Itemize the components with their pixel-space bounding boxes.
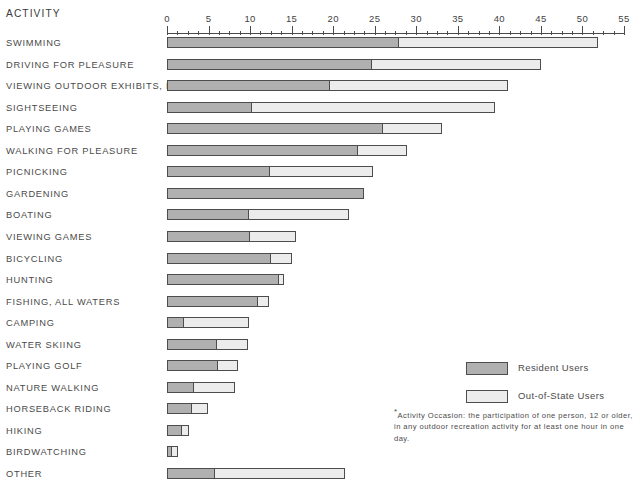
bar-segment-resident: [167, 166, 270, 177]
axis-tick-label: 0: [164, 13, 170, 24]
bar-segment-resident: [167, 123, 383, 134]
chart-row: SWIMMING: [0, 36, 638, 50]
axis-tick-minor: [344, 31, 345, 35]
bar-segment-resident: [167, 317, 184, 328]
row-label: PLAYING GAMES: [6, 122, 92, 136]
row-label: DRIVING FOR PLEASURE: [6, 58, 134, 72]
bar-segment-resident: [167, 188, 364, 199]
stacked-bar: [167, 209, 349, 220]
stacked-bar: [167, 102, 495, 113]
row-label: PLAYING GOLF: [6, 359, 83, 373]
legend-label: Out-of-State Users: [518, 389, 604, 403]
chart-row: SIGHTSEEING: [0, 101, 638, 115]
axis-tick-minor: [603, 31, 604, 35]
bar-segment-resident: [167, 360, 218, 371]
axis-tick-minor: [562, 31, 563, 35]
axis-tick-label: 25: [369, 13, 380, 24]
axis-tick-minor: [531, 31, 532, 35]
axis-tick-major: [624, 26, 625, 35]
chart-row: BICYCLING: [0, 252, 638, 266]
axis-tick-minor: [229, 31, 230, 35]
axis-tick-minor: [406, 31, 407, 35]
stacked-bar: [167, 360, 238, 371]
x-axis: 0510152025303540455055: [0, 0, 638, 40]
chart-row: DRIVING FOR PLEASURE: [0, 58, 638, 72]
bar-segment-resident: [167, 59, 372, 70]
chart-row: VIEWING GAMES: [0, 230, 638, 244]
axis-tick-label: 20: [327, 13, 338, 24]
bar-segment-out-of-state: [257, 296, 269, 307]
bar-segment-out-of-state: [329, 80, 508, 91]
stacked-bar: [167, 253, 292, 264]
stacked-bar: [167, 446, 178, 457]
axis-tick-minor: [427, 31, 428, 35]
axis-tick-minor: [479, 31, 480, 35]
axis-tick-major: [292, 26, 293, 35]
row-label: OTHER: [6, 467, 42, 481]
bar-segment-out-of-state: [191, 403, 208, 414]
stacked-bar: [167, 382, 235, 393]
axis-tick-minor: [198, 31, 199, 35]
axis-tick-minor: [354, 31, 355, 35]
bar-segment-resident: [167, 209, 249, 220]
bar-segment-resident: [167, 403, 192, 414]
row-label: SWIMMING: [6, 36, 62, 50]
axis-tick-label: 5: [206, 13, 212, 24]
axis-tick-major: [333, 26, 334, 35]
bar-segment-out-of-state: [181, 425, 189, 436]
bar-segment-resident: [167, 425, 182, 436]
stacked-bar: [167, 166, 373, 177]
bar-segment-out-of-state: [269, 166, 373, 177]
axis-tick-minor: [364, 31, 365, 35]
bar-segment-resident: [167, 145, 358, 156]
row-label: FISHING, ALL WATERS: [6, 295, 120, 309]
axis-tick-minor: [572, 31, 573, 35]
axis-tick-minor: [260, 31, 261, 35]
stacked-bar: [167, 274, 284, 285]
bar-segment-out-of-state: [357, 145, 407, 156]
bar-segment-out-of-state: [382, 123, 442, 134]
bar-segment-resident: [167, 253, 271, 264]
chart-row: PICNICKING: [0, 165, 638, 179]
footnote-line-2: in any outdoor recreation activity for a…: [394, 422, 624, 443]
axis-tick-major: [582, 26, 583, 35]
axis-tick-label: 50: [577, 13, 588, 24]
row-label: BIRDWATCHING: [6, 445, 87, 459]
bar-segment-resident: [167, 102, 252, 113]
stacked-bar: [167, 80, 508, 91]
chart-row: VIEWING OUTDOOR EXHIBITS, ETC.: [0, 79, 638, 93]
bar-segment-out-of-state: [249, 231, 296, 242]
bar-segment-out-of-state: [217, 360, 238, 371]
row-label: WATER SKIING: [6, 338, 82, 352]
row-label: CAMPING: [6, 316, 55, 330]
row-label: GARDENING: [6, 187, 69, 201]
bar-segment-resident: [167, 468, 215, 479]
axis-tick-minor: [510, 31, 511, 35]
bar-segment-resident: [167, 274, 279, 285]
bar-segment-out-of-state: [214, 468, 345, 479]
axis-tick-minor: [447, 31, 448, 35]
row-label: NATURE WALKING: [6, 381, 99, 395]
axis-tick-minor: [551, 31, 552, 35]
bar-segment-resident: [167, 37, 399, 48]
axis-tick-minor: [437, 31, 438, 35]
footnote-line-1: Activity Occasion: the participation of …: [398, 411, 633, 420]
stacked-bar: [167, 296, 269, 307]
axis-tick-minor: [302, 31, 303, 35]
axis-tick-minor: [520, 31, 521, 35]
chart-row: BOATING: [0, 208, 638, 222]
bar-segment-out-of-state: [278, 274, 284, 285]
out-of-state-swatch: [466, 390, 508, 403]
row-label: BICYCLING: [6, 252, 63, 266]
bar-segment-out-of-state: [398, 37, 598, 48]
axis-tick-label: 10: [244, 13, 255, 24]
axis-tick-major: [209, 26, 210, 35]
chart-row: OTHER: [0, 467, 638, 481]
axis-tick-major: [499, 26, 500, 35]
footnote: *Activity Occasion: the participation of…: [394, 406, 636, 444]
bar-segment-resident: [167, 339, 217, 350]
axis-tick-major: [416, 26, 417, 35]
stacked-bar: [167, 425, 189, 436]
stacked-bar: [167, 317, 249, 328]
chart-row: GARDENING: [0, 187, 638, 201]
